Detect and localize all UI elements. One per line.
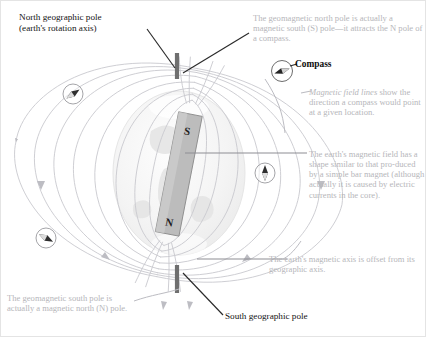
- annotation-field-lines-paragraph: Magnetic field lines show the direction …: [309, 87, 426, 117]
- earth-magnetic-field-figure: S N: [0, 0, 426, 337]
- annotation-geomagnetic-north-paragraph: The geomagnetic north pole is actually a…: [253, 13, 425, 43]
- compass-lower-left: [36, 228, 56, 248]
- leader-geomagnetic-south: [134, 289, 179, 301]
- leader-geomagnetic-north: [183, 33, 249, 73]
- annotation-geomagnetic-south-paragraph: The geomagnetic south pole is actually a…: [7, 293, 139, 313]
- annotation-compass-label: Compass: [295, 59, 331, 70]
- annotation-north-geographic-pole: North geographic pole (earth's rotation …: [19, 12, 102, 34]
- annotation-field-lines-emphasis: Magnetic field lines: [309, 87, 377, 97]
- annotation-south-geographic-pole: South geographic pole: [225, 311, 308, 322]
- annotation-earth-field-paragraph: The earth's magnetic field has a shape s…: [309, 149, 425, 200]
- compass-callout: [272, 61, 293, 82]
- compass-upper-left: [63, 84, 83, 104]
- compass-right-equator: [255, 163, 275, 183]
- annotation-magnetic-axis-paragraph: The earth's magnetic axis is offset from…: [269, 254, 426, 274]
- leader-north-pole: [147, 29, 175, 68]
